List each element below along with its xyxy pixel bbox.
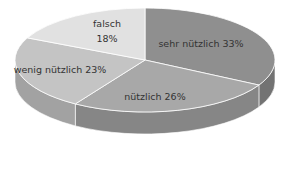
slice-label: sehr nützlich 33% [158, 38, 243, 49]
slice-label: wenig nützlich 23% [14, 64, 107, 75]
slice-label: nützlich 26% [124, 91, 185, 102]
slice-label: 18% [96, 33, 117, 44]
slice-label: falsch [93, 18, 121, 29]
pie-chart: sehr nützlich 33%nützlich 26%wenig nützl… [0, 0, 284, 173]
